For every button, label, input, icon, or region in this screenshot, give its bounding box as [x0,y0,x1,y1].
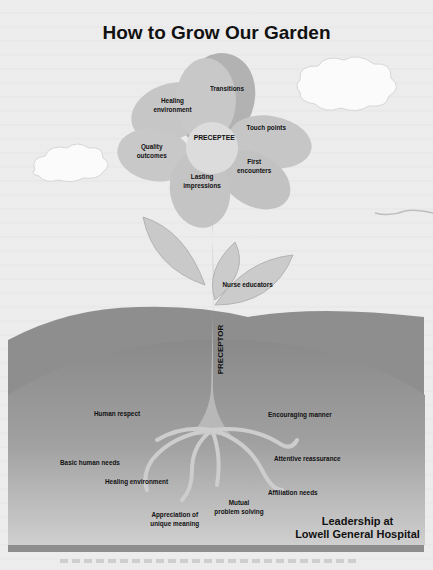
cloud-edge-icon [375,210,433,214]
root-label-attentive-reassurance: Attentive reassurance [274,454,341,463]
petal-label-touch-points: Touch points [246,123,286,132]
root-label-human-respect: Human respect [94,409,140,418]
root-label-mutual-problem-solving: Mutualproblem solving [214,498,263,516]
center-label-preceptee: PRECEPTEE [194,133,235,142]
petal-label-transitions: Transitions [210,84,244,93]
petal-label-lasting-impressions: Lastingimpressions [183,172,221,190]
caption-strip [60,559,360,563]
root-label-basic-human-needs: Basic human needs [60,458,120,467]
petal-label-quality-outcomes: Qualityoutcomes [137,142,167,160]
root-label-appreciation-unique-meaning: Appreciation ofunique meaning [150,510,199,528]
petal-label-healing-environment: Healingenvironment [153,96,191,114]
page-title: How to Grow Our Garden [0,22,433,44]
root-label-affiliation-needs: Affiliation needs [268,488,318,497]
petal-label-first-encounters: Firstencounters [237,157,271,175]
cloud-right-icon [297,57,397,111]
root-label-encouraging-manner: Encouraging manner [268,410,332,419]
brand-label: Leadership atLowell General Hospital [295,515,420,541]
stem-label-preceptor: PRECEPTOR [216,325,225,375]
leaf-label-nurse-educators: Nurse educators [222,280,272,289]
root-label-healing-environment: Healing environment [105,477,168,486]
cloud-left-icon [33,144,108,182]
